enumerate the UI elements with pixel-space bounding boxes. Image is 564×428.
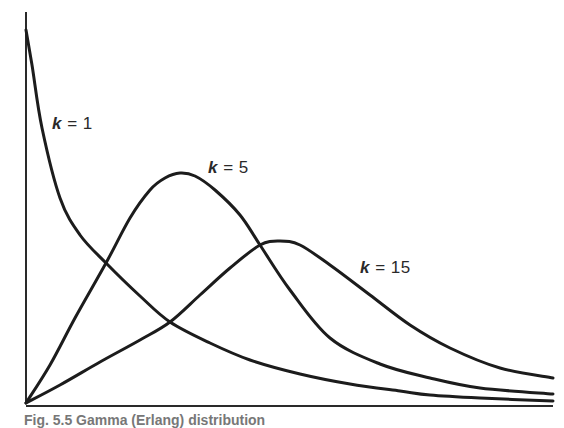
figure-caption: Fig. 5.5 Gamma (Erlang) distribution [24,412,265,428]
k-symbol: k [360,258,370,277]
label-k-15: k = 15 [360,258,411,278]
label-k-1: k = 1 [52,114,93,134]
label-value: = 5 [223,158,249,177]
k-symbol: k [52,114,62,133]
curve-k-5 [26,173,553,403]
curve-k-1 [26,30,553,401]
label-value: = 1 [67,114,93,133]
label-k-5: k = 5 [208,158,249,178]
k-symbol: k [208,158,218,177]
label-value: = 15 [375,258,411,277]
